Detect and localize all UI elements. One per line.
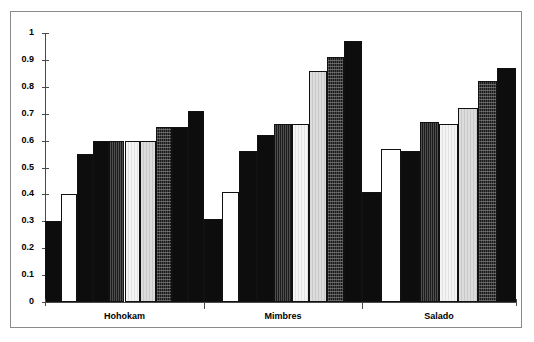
chart-figure: 10.90.80.70.60.50.40.30.20.10 HohokamMim… (0, 0, 534, 342)
bar (188, 111, 204, 302)
bar (439, 124, 458, 302)
bar (61, 194, 77, 302)
category-divider-tick (204, 302, 205, 309)
y-tick-label: 0.3 (6, 216, 34, 225)
y-tick-label: 0.5 (6, 163, 34, 172)
y-tick-label: 0 (6, 297, 34, 306)
bar (239, 151, 257, 302)
bar (401, 151, 420, 302)
y-tick-mark (42, 60, 49, 61)
y-tick-label: 0.1 (6, 270, 34, 279)
bar (156, 127, 172, 302)
y-tick-mark (42, 194, 49, 195)
bar (497, 68, 516, 302)
bar (93, 141, 109, 302)
y-tick-label: 0.2 (6, 243, 34, 252)
bar (77, 154, 93, 302)
bar (125, 141, 141, 302)
bar (140, 141, 156, 302)
y-tick-label: 1 (6, 28, 34, 37)
bar (344, 41, 362, 302)
y-tick-label: 0.4 (6, 189, 34, 198)
bar (274, 124, 292, 302)
y-tick-label: 0.9 (6, 55, 34, 64)
category-label-mimbres: Mimbres (204, 311, 362, 322)
category-label-hohokam: Hohokam (45, 311, 204, 322)
plot-area: 10.90.80.70.60.50.40.30.20.10 HohokamMim… (0, 0, 534, 342)
bar (362, 192, 381, 302)
bar (109, 141, 125, 302)
bar (327, 57, 345, 302)
bar (292, 124, 310, 302)
x-axis-line (45, 302, 516, 303)
category-label-salado: Salado (362, 311, 516, 322)
y-tick-mark (42, 114, 49, 115)
y-tick-label: 0.7 (6, 109, 34, 118)
bar (381, 149, 400, 302)
bar (45, 221, 61, 302)
category-divider-tick (362, 302, 363, 309)
y-tick-mark (42, 168, 49, 169)
y-tick-label: 0.8 (6, 82, 34, 91)
y-tick-mark (42, 87, 49, 88)
bar (478, 81, 497, 302)
bar (257, 135, 275, 302)
bar (420, 122, 439, 302)
x-axis-end-tick (516, 299, 517, 306)
bar (222, 192, 240, 302)
x-axis-start-tick (45, 299, 46, 306)
y-tick-label: 0.6 (6, 136, 34, 145)
y-tick-mark (42, 141, 49, 142)
bar (204, 219, 222, 302)
bar (172, 127, 188, 302)
y-tick-mark (42, 33, 49, 34)
bar (458, 108, 477, 302)
bar (309, 71, 327, 302)
